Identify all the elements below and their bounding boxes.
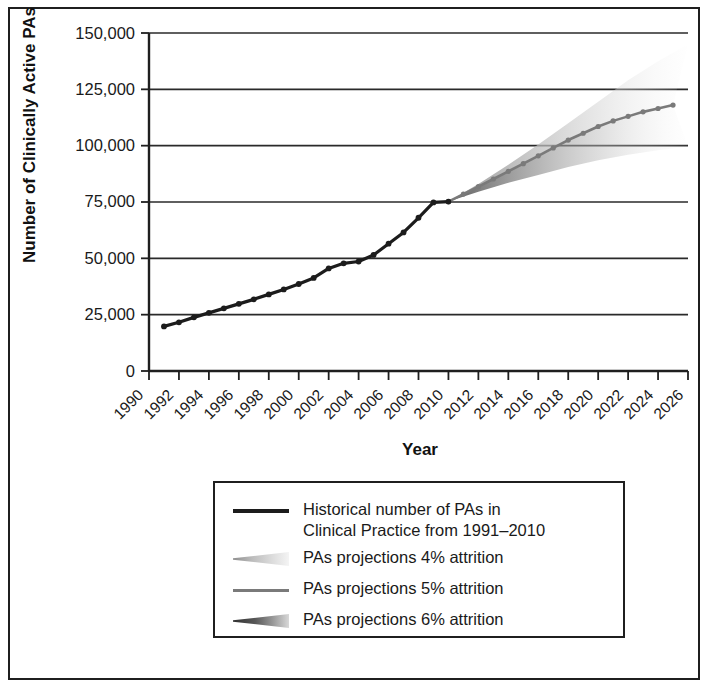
legend-swatch-projection-6-icon [231, 611, 291, 631]
figure-root: Number of Clinically Active PAs Year 150… [0, 0, 711, 690]
x-tick-marks [149, 371, 688, 380]
legend-swatch-projection-4-icon [231, 549, 291, 569]
legend-swatch-historical-icon [231, 501, 291, 521]
legend-item-projection-4[interactable]: PAs projections 4% attrition [231, 547, 504, 569]
legend-label-projection-6: PAs projections 6% attrition [303, 609, 504, 630]
series-band-6-percent [448, 105, 688, 201]
legend-swatch-projection-5-icon [231, 580, 291, 600]
series-line-historical [161, 199, 451, 330]
legend: Historical number of PAs in Clinical Pra… [213, 481, 625, 638]
legend-label-historical: Historical number of PAs in Clinical Pra… [303, 499, 545, 541]
legend-item-projection-5[interactable]: PAs projections 5% attrition [231, 578, 504, 600]
legend-label-projection-4: PAs projections 4% attrition [303, 547, 504, 568]
legend-item-historical[interactable]: Historical number of PAs in Clinical Pra… [231, 499, 545, 541]
legend-item-projection-6[interactable]: PAs projections 6% attrition [231, 609, 504, 631]
gridlines [149, 33, 688, 315]
legend-label-projection-5: PAs projections 5% attrition [303, 578, 504, 599]
